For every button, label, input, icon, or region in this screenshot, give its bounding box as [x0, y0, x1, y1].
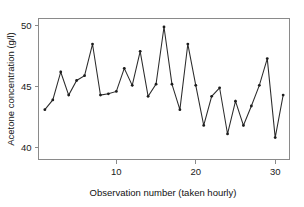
data-series-acetone-concentration — [43, 26, 284, 139]
data-point — [67, 94, 70, 97]
data-point — [210, 95, 213, 98]
plot-frame — [39, 19, 290, 160]
data-point — [59, 71, 62, 74]
y-tick-label: 45 — [21, 81, 32, 92]
data-point — [266, 57, 269, 60]
data-point — [139, 50, 142, 53]
data-point — [99, 94, 102, 97]
line-chart: 404550 102030 Observation number (taken … — [0, 0, 304, 207]
data-point — [51, 99, 54, 102]
data-point — [43, 108, 46, 111]
y-tick-label: 40 — [21, 142, 32, 153]
data-point — [194, 84, 197, 87]
chart-figure: 404550 102030 Observation number (taken … — [0, 0, 304, 207]
data-point — [258, 84, 261, 87]
x-axis-ticks: 102030 — [111, 160, 280, 177]
data-point — [123, 67, 126, 70]
data-point — [147, 95, 150, 98]
x-tick-label: 10 — [111, 166, 122, 177]
data-point — [171, 83, 174, 86]
data-point — [274, 136, 277, 139]
data-markers — [43, 26, 284, 139]
y-tick-label: 50 — [21, 20, 32, 31]
data-point — [75, 79, 78, 82]
data-point — [282, 94, 285, 97]
data-point — [107, 92, 110, 95]
y-axis-ticks: 404550 — [21, 20, 39, 153]
data-point — [83, 74, 86, 77]
data-point — [202, 124, 205, 127]
x-tick-label: 20 — [190, 166, 201, 177]
data-point — [186, 43, 189, 46]
data-point — [218, 86, 221, 89]
data-point — [242, 124, 245, 127]
data-point — [234, 100, 237, 103]
data-point — [91, 43, 94, 46]
data-point — [131, 84, 134, 87]
x-tick-label: 30 — [270, 166, 281, 177]
data-point — [155, 83, 158, 86]
data-point — [250, 105, 253, 108]
data-point — [115, 90, 118, 93]
data-point — [178, 108, 181, 111]
data-point — [163, 26, 166, 29]
y-axis-title: Acetone concentration (g/l) — [5, 32, 16, 146]
x-axis-title: Observation number (taken hourly) — [90, 187, 237, 198]
data-point — [226, 133, 229, 136]
